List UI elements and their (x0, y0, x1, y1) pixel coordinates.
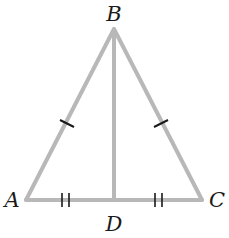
segment-BC (114, 29, 202, 200)
vertex-label-A: A (2, 188, 19, 212)
vertex-label-D: D (105, 212, 123, 236)
vertex-label-B: B (105, 2, 121, 26)
triangle-diagram: B A C D (0, 0, 229, 238)
vertex-label-C: C (209, 188, 225, 212)
segment-AB (26, 29, 114, 200)
